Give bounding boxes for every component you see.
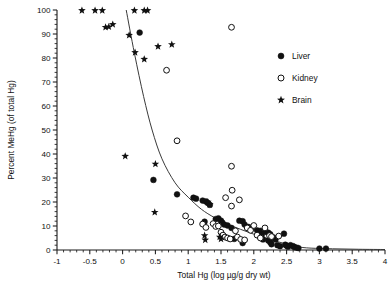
- data-point-kidney: [188, 219, 194, 225]
- data-point-kidney: [174, 138, 180, 144]
- data-point-kidney: [236, 197, 242, 203]
- x-tick-label: 3.5: [347, 257, 359, 266]
- data-point-kidney: [164, 67, 170, 73]
- y-tick-label: 0: [46, 246, 51, 255]
- y-tick-label: 70: [41, 78, 51, 87]
- data-point-kidney: [223, 195, 229, 201]
- data-point-brain: [144, 6, 152, 13]
- data-point-liver: [277, 243, 283, 249]
- data-point-brain: [168, 41, 176, 48]
- legend-label-brain: Brain: [292, 95, 312, 105]
- x-tick-label: -1: [53, 257, 61, 266]
- data-point-kidney: [229, 203, 235, 209]
- y-tick-label: 50: [41, 126, 51, 135]
- x-tick-label: 0.5: [150, 257, 162, 266]
- data-point-liver: [137, 30, 143, 36]
- legend-label-kidney: Kidney: [292, 73, 318, 83]
- y-tick-label: 90: [41, 30, 51, 39]
- data-point-liver: [296, 245, 302, 251]
- data-point-kidney: [257, 235, 263, 241]
- series-liver: [137, 30, 329, 252]
- regression-fit-curve: [126, 10, 385, 250]
- data-point-brain: [131, 6, 139, 13]
- data-point-kidney: [227, 236, 233, 242]
- legend-marker-liver: [278, 53, 284, 59]
- plot-svg: -1-0.500.511.522.533.5401020304050607080…: [0, 0, 391, 292]
- x-tick-label: 1: [186, 257, 191, 266]
- legend-marker-brain: [277, 96, 285, 104]
- data-point-brain: [91, 6, 99, 13]
- data-point-brain: [121, 152, 129, 159]
- data-point-kidney: [229, 24, 235, 30]
- data-point-kidney: [183, 213, 189, 219]
- y-tick-label: 100: [37, 6, 51, 15]
- y-tick-label: 80: [41, 54, 51, 63]
- series-brain: [78, 6, 225, 243]
- data-point-liver: [269, 241, 275, 247]
- x-tick-label: 0: [120, 257, 125, 266]
- data-point-brain: [140, 55, 148, 62]
- scatter-plot-figure: -1-0.500.511.522.533.5401020304050607080…: [0, 0, 391, 292]
- y-tick-label: 10: [41, 222, 51, 231]
- data-point-kidney: [269, 234, 275, 240]
- legend-group: LiverKidneyBrain: [277, 51, 318, 105]
- data-point-brain: [154, 42, 162, 49]
- data-point-brain: [152, 160, 160, 167]
- data-point-liver: [151, 177, 157, 183]
- legend-marker-kidney: [278, 75, 284, 81]
- data-point-brain: [201, 236, 209, 243]
- data-point-kidney: [229, 187, 235, 193]
- data-point-brain: [151, 208, 159, 215]
- y-tick-label: 60: [41, 102, 51, 111]
- data-point-kidney: [276, 233, 282, 239]
- data-point-kidney: [233, 228, 239, 234]
- series-kidney: [164, 24, 282, 242]
- data-point-brain: [78, 6, 86, 13]
- x-tick-label: 2: [252, 257, 257, 266]
- y-tick-label: 40: [41, 150, 51, 159]
- data-point-liver: [317, 246, 323, 252]
- x-tick-label: 1.5: [215, 257, 227, 266]
- data-point-liver: [193, 196, 199, 202]
- y-tick-label: 20: [41, 198, 51, 207]
- data-point-brain: [98, 6, 106, 13]
- y-tick-label: 30: [41, 174, 51, 183]
- y-axis-title: Percent MeHg (of total Hg): [6, 80, 16, 180]
- data-point-kidney: [203, 225, 209, 231]
- data-point-liver: [323, 246, 329, 252]
- x-tick-label: 2.5: [281, 257, 293, 266]
- data-point-kidney: [251, 223, 257, 229]
- data-point-kidney: [229, 163, 235, 169]
- legend-label-liver: Liver: [292, 51, 310, 61]
- data-point-kidney: [215, 223, 221, 229]
- x-tick-label: 4: [383, 257, 388, 266]
- data-points-group: [78, 6, 329, 251]
- data-point-liver: [174, 191, 180, 197]
- data-point-kidney: [262, 225, 268, 231]
- x-tick-label: -0.5: [83, 257, 97, 266]
- data-point-kidney: [242, 237, 248, 243]
- fit-curve-group: [126, 10, 385, 250]
- x-tick-label: 3: [317, 257, 322, 266]
- x-axis-title: Total Hg (log µg/g dry wt): [177, 270, 270, 280]
- axis-labels-group: -1-0.500.511.522.533.5401020304050607080…: [6, 6, 388, 280]
